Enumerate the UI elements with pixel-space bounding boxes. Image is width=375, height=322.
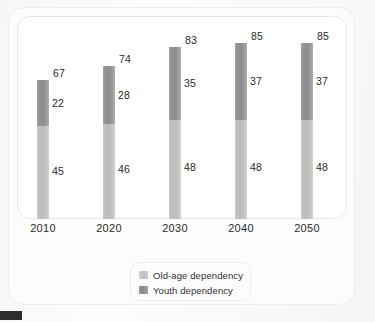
bar-segment-youth-dependency[interactable]: 8537	[235, 43, 247, 120]
bar-value-label-youth: 35	[184, 77, 196, 89]
legend-swatch-old-age-icon	[139, 271, 148, 279]
bar-segment-youth-dependency[interactable]: 7428	[103, 66, 115, 124]
x-tick-label: 2040	[213, 222, 269, 234]
bar-group: 672245	[15, 16, 71, 219]
bar-group: 853748	[279, 16, 335, 219]
bar-value-label-youth: 37	[316, 75, 328, 87]
bar-total-label: 74	[119, 53, 131, 65]
x-tick-label: 2050	[279, 222, 335, 234]
figure-root: 672245742846833548853748853748 201020202…	[0, 0, 375, 322]
bar-segment-old-age-dependency[interactable]: 48	[235, 120, 247, 219]
bar-segment-old-age-dependency[interactable]: 48	[301, 120, 313, 219]
stacked-bar[interactable]: 742846	[103, 66, 115, 219]
bar-value-label-youth: 37	[250, 75, 262, 87]
stacked-bar[interactable]: 853748	[301, 43, 313, 219]
chart-legend: Old-age dependency Youth dependency	[130, 262, 251, 301]
bar-segment-youth-dependency[interactable]: 6722	[37, 80, 49, 126]
bar-group: 833548	[147, 16, 203, 219]
bar-total-label: 83	[185, 34, 197, 46]
bar-value-label-old-age: 45	[52, 165, 64, 177]
bar-segment-youth-dependency[interactable]: 8335	[169, 47, 181, 119]
bar-segment-old-age-dependency[interactable]: 45	[37, 126, 49, 219]
x-axis-tick-labels: 20102020203020402050	[17, 222, 347, 240]
legend-item-youth-dependency[interactable]: Youth dependency	[139, 283, 250, 297]
stacked-bar[interactable]: 672245	[37, 80, 49, 219]
stacked-bar[interactable]: 853748	[235, 43, 247, 219]
x-tick-label: 2010	[15, 222, 71, 234]
bar-total-label: 85	[251, 30, 263, 42]
bar-value-label-youth: 22	[52, 97, 64, 109]
bar-group: 742846	[81, 16, 137, 219]
bar-value-label-old-age: 48	[316, 161, 328, 173]
legend-label-youth: Youth dependency	[153, 285, 233, 296]
x-tick-label: 2030	[147, 222, 203, 234]
bars-layer: 672245742846833548853748853748	[17, 16, 347, 219]
bar-value-label-old-age: 46	[118, 163, 130, 175]
legend-label-old-age: Old-age dependency	[153, 270, 243, 281]
legend-item-old-age-dependency[interactable]: Old-age dependency	[139, 268, 250, 282]
bar-group: 853748	[213, 16, 269, 219]
bar-segment-old-age-dependency[interactable]: 48	[169, 120, 181, 219]
bar-segment-youth-dependency[interactable]: 8537	[301, 43, 313, 120]
legend-swatch-youth-icon	[139, 286, 148, 294]
bar-value-label-youth: 28	[118, 89, 130, 101]
bar-total-label: 85	[317, 30, 329, 42]
x-tick-label: 2020	[81, 222, 137, 234]
scan-corner-artifact	[0, 311, 22, 320]
bar-segment-old-age-dependency[interactable]: 46	[103, 124, 115, 219]
bar-total-label: 67	[53, 67, 65, 79]
stacked-bar[interactable]: 833548	[169, 47, 181, 219]
bar-value-label-old-age: 48	[184, 161, 196, 173]
bar-value-label-old-age: 48	[250, 161, 262, 173]
